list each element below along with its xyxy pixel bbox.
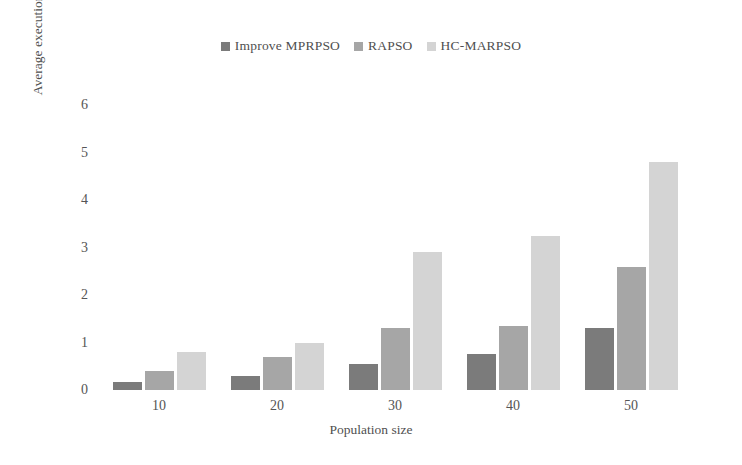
bar-group-10 — [100, 105, 218, 390]
y-axis-tick-1: 1 — [62, 335, 88, 351]
x-axis-tick-20: 20 — [217, 398, 337, 414]
x-axis-tick-40: 40 — [453, 398, 573, 414]
x-axis-tick-30: 30 — [335, 398, 455, 414]
bar-30-series-1[interactable] — [349, 364, 378, 390]
bar-group-50 — [572, 105, 690, 390]
x-axis-title: Population size — [0, 422, 742, 438]
bar-20-series-3[interactable] — [295, 343, 324, 391]
bar-30-series-2[interactable] — [381, 328, 410, 390]
y-axis-tick-4: 4 — [62, 192, 88, 208]
bar-40-series-1[interactable] — [467, 354, 496, 390]
y-axis-title: Average execution tim e/s — [30, 0, 46, 140]
bar-30-series-3[interactable] — [413, 252, 442, 390]
plot-region: Average execution tim e/s 0123456 102030… — [0, 0, 742, 465]
bar-40-series-3[interactable] — [531, 236, 560, 390]
bar-40-series-2[interactable] — [499, 326, 528, 390]
y-axis-tick-3: 3 — [62, 240, 88, 256]
bar-group-20 — [218, 105, 336, 390]
bar-group-30 — [336, 105, 454, 390]
bar-50-series-3[interactable] — [649, 162, 678, 390]
y-axis-tick-5: 5 — [62, 145, 88, 161]
x-axis-tick-50: 50 — [571, 398, 691, 414]
bar-20-series-1[interactable] — [231, 376, 260, 390]
bar-group-40 — [454, 105, 572, 390]
bar-10-series-1[interactable] — [113, 382, 142, 390]
x-axis-tick-10: 10 — [99, 398, 219, 414]
bar-20-series-2[interactable] — [263, 357, 292, 390]
bar-10-series-2[interactable] — [145, 371, 174, 390]
y-axis-tick-0: 0 — [62, 382, 88, 398]
bar-chart: Improve MPRPSO RAPSO HC-MARPSO Average e… — [0, 0, 742, 465]
bar-50-series-1[interactable] — [585, 328, 614, 390]
bar-10-series-3[interactable] — [177, 352, 206, 390]
plot-area — [100, 105, 690, 390]
y-axis-tick-2: 2 — [62, 287, 88, 303]
bar-50-series-2[interactable] — [617, 267, 646, 391]
y-axis-tick-6: 6 — [62, 97, 88, 113]
